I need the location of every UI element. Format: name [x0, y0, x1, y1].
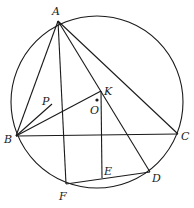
segment-KE — [101, 91, 102, 178]
geometry-diagram: A B C K O P F E D — [0, 0, 194, 208]
label-A: A — [51, 5, 60, 18]
label-F: F — [58, 190, 67, 203]
label-K: K — [103, 85, 113, 98]
label-B: B — [3, 133, 12, 146]
segment-AF — [58, 21, 66, 184]
center-point-O — [95, 98, 98, 101]
label-O: O — [90, 104, 99, 117]
label-D: D — [151, 172, 161, 185]
segment-BC — [16, 134, 178, 136]
segment-BK — [16, 91, 101, 136]
circumcircle-O — [11, 16, 183, 188]
label-P: P — [41, 95, 50, 108]
label-C: C — [181, 130, 190, 143]
segment-AC — [58, 21, 178, 134]
label-E: E — [103, 165, 112, 178]
segment-AB — [16, 21, 58, 136]
